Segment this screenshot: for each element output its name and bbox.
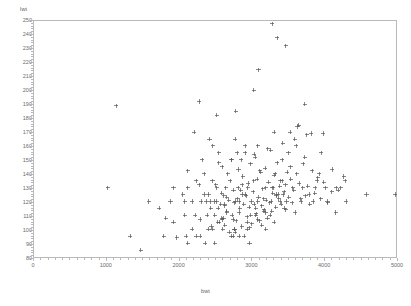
tick-mark xyxy=(31,166,33,167)
tick-mark xyxy=(31,219,33,220)
x-axis-title: bwt xyxy=(0,288,411,294)
tick-mark xyxy=(397,258,398,261)
tick-mark xyxy=(353,258,354,260)
tick-mark xyxy=(331,258,332,260)
tick-mark xyxy=(30,244,33,245)
y-tick-label: 150 xyxy=(0,157,32,163)
x-tick-label: 0 xyxy=(31,262,34,268)
tick-mark xyxy=(31,233,33,234)
tick-mark xyxy=(77,258,78,260)
tick-mark xyxy=(339,258,340,260)
tick-mark xyxy=(31,26,33,27)
tick-mark xyxy=(31,140,33,141)
y-tick-label: 110 xyxy=(0,213,32,219)
tick-mark xyxy=(31,98,33,99)
tick-mark xyxy=(30,34,33,35)
tick-mark xyxy=(31,185,33,186)
y-tick-label: 140 xyxy=(0,171,32,177)
tick-mark xyxy=(208,258,209,260)
tick-mark xyxy=(30,174,33,175)
tick-mark xyxy=(30,20,33,21)
y-tick-label: 160 xyxy=(0,143,32,149)
tick-mark xyxy=(288,258,289,260)
tick-mark xyxy=(30,76,33,77)
tick-mark xyxy=(382,258,383,260)
tick-mark xyxy=(251,258,252,261)
tick-mark xyxy=(215,258,216,260)
tick-mark xyxy=(31,152,33,153)
tick-mark xyxy=(113,258,114,260)
tick-mark xyxy=(31,205,33,206)
tick-mark xyxy=(31,171,33,172)
tick-mark xyxy=(30,216,33,217)
tick-mark xyxy=(31,196,33,197)
y-tick-label: 250 xyxy=(0,17,32,23)
tick-mark xyxy=(31,194,33,195)
tick-mark xyxy=(31,79,33,80)
tick-mark xyxy=(31,87,33,88)
tick-mark xyxy=(31,112,33,113)
tick-mark xyxy=(375,258,376,260)
tick-mark xyxy=(390,258,391,260)
tick-mark xyxy=(31,154,33,155)
tick-mark xyxy=(31,54,33,55)
tick-mark xyxy=(31,107,33,108)
tick-mark xyxy=(30,48,33,49)
tick-mark xyxy=(31,143,33,144)
tick-mark xyxy=(31,238,33,239)
tick-mark xyxy=(193,258,194,260)
y-tick-label: 130 xyxy=(0,185,32,191)
tick-mark xyxy=(31,56,33,57)
y-axis-title: lwt xyxy=(20,6,27,12)
tick-mark xyxy=(31,180,33,181)
tick-mark xyxy=(31,124,33,125)
tick-mark xyxy=(31,247,33,248)
tick-mark xyxy=(31,157,33,158)
tick-mark xyxy=(30,104,33,105)
tick-mark xyxy=(30,132,33,133)
tick-mark xyxy=(120,258,121,260)
tick-mark xyxy=(135,258,136,260)
y-tick-label: 80 xyxy=(0,255,32,261)
y-tick-label: 200 xyxy=(0,87,32,93)
tick-mark xyxy=(31,101,33,102)
tick-mark xyxy=(31,138,33,139)
tick-mark xyxy=(30,146,33,147)
tick-mark xyxy=(31,182,33,183)
tick-mark xyxy=(31,177,33,178)
tick-mark xyxy=(31,31,33,32)
tick-mark xyxy=(31,59,33,60)
tick-mark xyxy=(222,258,223,260)
y-tick-label: 180 xyxy=(0,115,32,121)
tick-mark xyxy=(31,37,33,38)
tick-mark xyxy=(31,208,33,209)
tick-mark xyxy=(31,51,33,52)
tick-mark xyxy=(30,62,33,63)
tick-mark xyxy=(244,258,245,260)
tick-mark xyxy=(84,258,85,260)
data-points-layer xyxy=(34,21,396,257)
tick-mark xyxy=(91,258,92,260)
tick-mark xyxy=(48,258,49,260)
tick-mark xyxy=(31,224,33,225)
tick-mark xyxy=(31,168,33,169)
tick-mark xyxy=(31,70,33,71)
tick-mark xyxy=(31,68,33,69)
y-tick-label: 220 xyxy=(0,59,32,65)
tick-mark xyxy=(31,149,33,150)
tick-mark xyxy=(31,250,33,251)
tick-mark xyxy=(31,129,33,130)
tick-mark xyxy=(31,73,33,74)
y-tick-label: 230 xyxy=(0,45,32,51)
tick-mark xyxy=(31,84,33,85)
tick-mark xyxy=(31,236,33,237)
x-tick-label: 4000 xyxy=(318,262,330,268)
tick-mark xyxy=(31,93,33,94)
tick-mark xyxy=(31,110,33,111)
scatter-plot-figure: lwt 250240230220210200190180170160150140… xyxy=(0,0,411,306)
tick-mark xyxy=(31,96,33,97)
y-tick-label: 240 xyxy=(0,31,32,37)
tick-mark xyxy=(302,258,303,260)
y-tick-label: 170 xyxy=(0,129,32,135)
tick-mark xyxy=(317,258,318,260)
